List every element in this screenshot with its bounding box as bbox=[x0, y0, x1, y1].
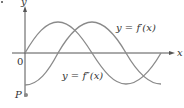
origin-label: 0 bbox=[17, 56, 23, 67]
point-p-marker bbox=[24, 93, 28, 97]
chart-canvas: x y 0 P y = f′(x) y = f″(x) bbox=[0, 0, 184, 108]
point-p-label: P bbox=[14, 89, 22, 100]
corner-mark bbox=[1, 1, 3, 3]
label-f-prime: y = f′(x) bbox=[115, 22, 156, 33]
x-axis-arrow-icon bbox=[169, 51, 175, 55]
y-axis-label: y bbox=[20, 0, 27, 7]
x-axis-label: x bbox=[177, 47, 183, 58]
label-f-double-prime: y = f″(x) bbox=[61, 70, 103, 81]
